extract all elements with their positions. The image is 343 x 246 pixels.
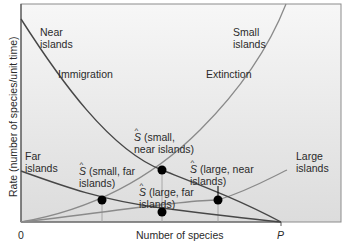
equilibrium-large-far-label: S (large, far islands)	[139, 186, 194, 210]
extinction-label: Extinction	[206, 68, 252, 80]
small-islands-label: Small islands	[233, 26, 266, 50]
equilibrium-small-far-label: S (small, far islands)	[79, 165, 135, 189]
equilibrium-small-near-label: S (small, near islands)	[134, 131, 194, 155]
x-end-tick-label: P	[277, 229, 284, 241]
y-axis-label: Rate (number of species/unit time)	[7, 47, 19, 197]
far-islands-label: Far islands	[25, 150, 58, 174]
immigration-label: Immigration	[58, 68, 113, 80]
equilibrium-large-near-label: S (large, near islands)	[190, 163, 254, 187]
x-axis-label: Number of species	[136, 229, 224, 241]
equilibrium-small-far-point	[98, 196, 107, 205]
large-islands-label: Large islands	[296, 150, 329, 174]
equilibrium-small-near-point	[158, 166, 167, 175]
equilibrium-large-near-point	[214, 196, 223, 205]
near-islands-label: Near islands	[40, 26, 73, 50]
x-origin-tick-label: 0	[18, 229, 24, 241]
